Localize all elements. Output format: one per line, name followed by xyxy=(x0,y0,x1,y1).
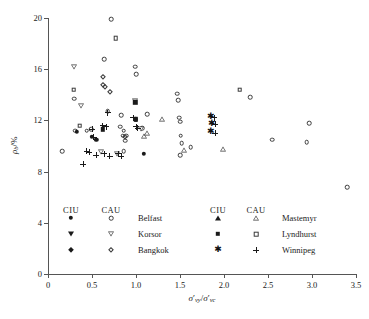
y-tick-label: 16 xyxy=(2,64,42,74)
y-tick-label: 20 xyxy=(2,13,42,23)
y-title-unit: /% xyxy=(9,136,19,146)
x-tick xyxy=(136,274,137,278)
scatter-chart-figure: 00.51.01.52.02.53.03.5 048121620 σ′vy/σ′… xyxy=(0,0,369,319)
x-tick-label: 1.0 xyxy=(131,280,142,290)
x-tick-label: 3.0 xyxy=(307,280,318,290)
y-tick-label: 4 xyxy=(2,218,42,228)
x-tick xyxy=(312,274,313,278)
x-tick xyxy=(268,274,269,278)
y-tick xyxy=(44,274,48,275)
x-tick-label: 0.5 xyxy=(87,280,98,290)
x-tick-label: 2.0 xyxy=(219,280,230,290)
x-title-sub-vc: vc xyxy=(210,296,216,303)
x-tick xyxy=(356,274,357,278)
x-tick-label: 2.5 xyxy=(263,280,274,290)
x-tick xyxy=(92,274,93,278)
y-title-rho: ρ xyxy=(9,150,19,154)
y-title-sub-b: b xyxy=(12,146,19,149)
x-tick xyxy=(224,274,225,278)
x-axis-title: σ′vy/σ′vc xyxy=(189,293,216,303)
x-tick-label: 1.5 xyxy=(175,280,186,290)
y-tick-label: 0 xyxy=(2,269,42,279)
x-tick-label: 3.5 xyxy=(351,280,362,290)
x-axis-line xyxy=(48,274,356,275)
x-tick xyxy=(180,274,181,278)
x-tick xyxy=(48,274,49,278)
y-axis-ticks: 048121620 xyxy=(0,0,42,319)
y-axis-title: ρb/% xyxy=(9,115,19,175)
plot-area: ✱✱✱ xyxy=(48,18,356,274)
x-tick-label: 0 xyxy=(46,280,50,290)
